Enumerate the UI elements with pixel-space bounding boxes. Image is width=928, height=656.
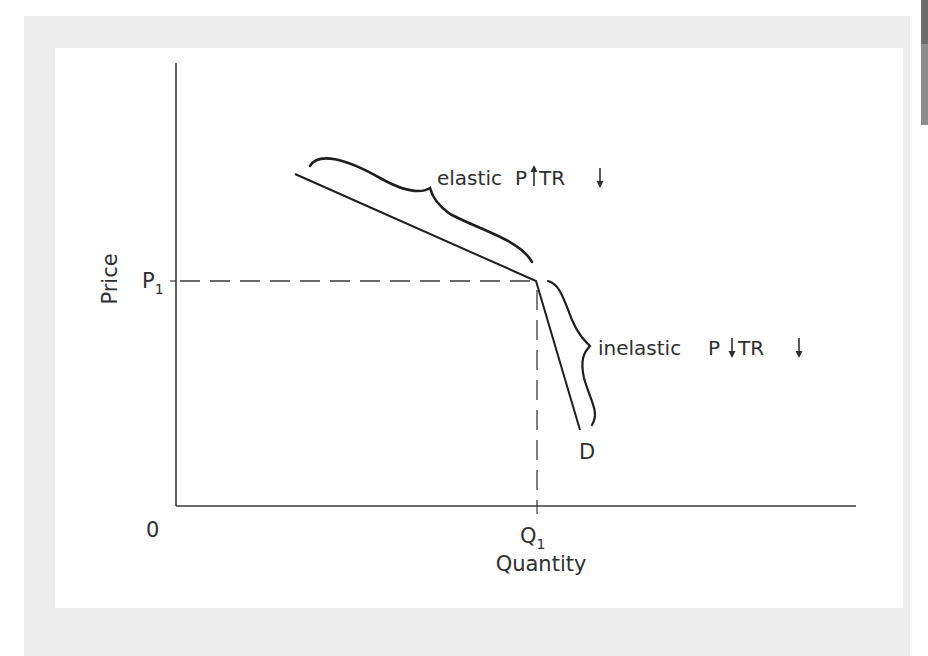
p1-label: P1 xyxy=(142,269,164,297)
arrow-up-icon xyxy=(531,165,538,186)
elastic-word: elastic xyxy=(437,166,502,190)
p1-main: P xyxy=(142,269,155,293)
inelastic-word: inelastic xyxy=(598,336,681,360)
inelastic-tr: TR xyxy=(737,336,764,360)
elastic-annotation: elastic P TR xyxy=(437,165,604,190)
inelastic-annotation: inelastic P TR xyxy=(598,336,803,360)
y-axis-label: Price xyxy=(98,253,122,304)
x-axis-label: Quantity xyxy=(496,552,587,576)
demand-label: D xyxy=(579,440,595,464)
elastic-p: P xyxy=(515,166,527,190)
q1-label: Q1 xyxy=(520,524,545,552)
origin-label: 0 xyxy=(146,518,159,542)
q1-sub: 1 xyxy=(537,536,546,552)
elastic-tr: TR xyxy=(538,166,565,190)
arrow-down-icon xyxy=(597,168,604,188)
inelastic-p: P xyxy=(708,336,720,360)
arrow-down-icon xyxy=(729,338,736,358)
p1-sub: 1 xyxy=(155,281,164,297)
arrow-down-icon xyxy=(796,338,803,358)
q1-main: Q xyxy=(520,524,537,548)
